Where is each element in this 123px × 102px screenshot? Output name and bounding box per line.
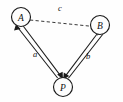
force-diagram: c a b A [0,0,123,102]
edge-a-line-left [17,26,58,78]
edge-b-group: b [63,29,104,79]
edge-b-label: b [86,51,90,61]
edge-c-label: c [58,3,62,13]
edge-c-group: c [30,3,91,26]
edge-a-label: a [33,49,37,59]
node-a-label: A [17,13,24,23]
edge-a-group: a [14,24,63,79]
node-b-label: B [97,21,103,31]
node-p-label: P [59,83,66,93]
node-p: P [54,78,73,97]
edge-b-line-left [64,33,98,78]
node-a: A [12,8,31,27]
vector-diagram-canvas: c a b A [0,0,123,102]
edge-a-line-right [23,25,63,78]
edge-c-dashed-line [30,20,91,26]
node-b: B [91,16,110,35]
